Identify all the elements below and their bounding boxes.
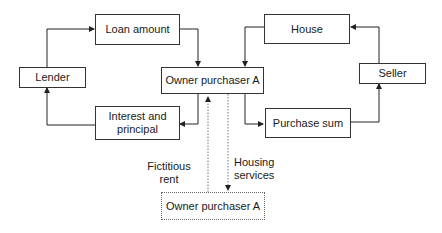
node-lender-label: Lender [35,71,69,84]
edge-seller-to-house [351,27,379,63]
edge-house-to-owner [245,27,264,66]
node-owner-purchaser-a: Owner purchaser A [161,67,264,94]
node-house-label: House [291,23,323,36]
node-purchase-sum: Purchase sum [265,108,351,138]
edge-owner-to-purchase [245,94,263,124]
node-purchase-sum-label: Purchase sum [273,117,343,130]
node-owner-purchaser-a-virtual-label: Owner purchaser A [166,200,260,213]
node-seller-label: Seller [378,67,406,80]
node-loan-amount-label: Loan amount [105,23,169,36]
node-interest-and-principal: Interest and principal [95,106,180,140]
edge-interest-to-lender [47,88,95,125]
edge-owner-to-interest [180,94,198,124]
node-lender: Lender [19,67,86,88]
node-seller: Seller [359,63,426,84]
edge-lender-to-loan [47,29,94,67]
node-owner-purchaser-a-label: Owner purchaser A [165,74,259,87]
edge-label-housing-services: Housing services [234,156,280,182]
node-loan-amount: Loan amount [95,14,180,45]
node-interest-and-principal-label: Interest and principal [96,110,179,136]
edge-label-fictitious-rent: Fictitious rent [142,160,196,186]
node-house: House [264,14,350,44]
edge-loan-to-owner [180,29,198,66]
node-owner-purchaser-a-virtual: Owner purchaser A [161,192,265,220]
edge-purchase-to-seller [350,84,379,122]
